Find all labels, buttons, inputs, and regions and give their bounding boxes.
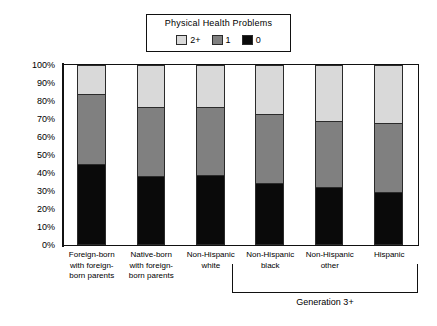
bar-segment-2plus[interactable] [138, 66, 164, 107]
x-axis-label: Hispanic [360, 250, 420, 261]
bar-segment-2plus[interactable] [78, 66, 104, 94]
y-tick-label: 10% [0, 223, 62, 232]
y-tick-label: 100% [0, 61, 62, 70]
y-tick-label: 90% [0, 79, 62, 88]
bars-layer [62, 65, 418, 245]
legend-title: Physical Health Problems [147, 18, 290, 28]
legend-label-0: 0 [256, 35, 261, 45]
bar-slot [62, 65, 121, 245]
y-tick-label: 70% [0, 115, 62, 124]
y-tick-label: 50% [0, 151, 62, 160]
legend-label-2plus: 2+ [190, 35, 200, 45]
y-tick-label: 80% [0, 97, 62, 106]
y-tick-label: 40% [0, 169, 62, 178]
chart-legend: Physical Health Problems 2+ 1 0 [146, 14, 291, 52]
bar-segment-1[interactable] [375, 123, 401, 192]
bar-slot [181, 65, 240, 245]
bar-segment-1[interactable] [316, 121, 342, 187]
stacked-bar[interactable] [77, 65, 105, 245]
plot-area: 100%90%80%70%60%50%40%30%20%10%0% [62, 64, 419, 246]
stacked-bar[interactable] [374, 65, 402, 245]
stacked-bar[interactable] [137, 65, 165, 245]
bar-segment-0[interactable] [78, 164, 104, 244]
bar-slot [240, 65, 299, 245]
legend-item-2plus: 2+ [176, 35, 200, 45]
bar-slot [121, 65, 180, 245]
x-axis-label: Native-born with foreign- born parents [122, 250, 182, 282]
bar-segment-1[interactable] [138, 107, 164, 176]
legend-swatch-1 [212, 35, 223, 45]
legend-swatch-2plus [176, 35, 187, 45]
bar-segment-0[interactable] [197, 175, 223, 244]
y-tick-label: 30% [0, 187, 62, 196]
y-tick-label: 20% [0, 205, 62, 214]
stacked-bar[interactable] [196, 65, 224, 245]
y-tick-label: 0% [0, 241, 62, 250]
generation-bracket-label: Generation 3+ [232, 297, 418, 307]
bar-segment-2plus[interactable] [316, 66, 342, 121]
legend-swatch-0 [242, 35, 253, 45]
bar-segment-2plus[interactable] [197, 66, 223, 107]
bar-segment-1[interactable] [197, 107, 223, 175]
bar-segment-1[interactable] [78, 94, 104, 163]
legend-entries: 2+ 1 0 [147, 35, 290, 45]
stacked-bar-chart: Physical Health Problems 2+ 1 0 100%90%8… [0, 0, 437, 326]
stacked-bar[interactable] [255, 65, 283, 245]
legend-item-1: 1 [212, 35, 231, 45]
stacked-bar[interactable] [315, 65, 343, 245]
legend-label-1: 1 [226, 35, 231, 45]
bar-segment-2plus[interactable] [375, 66, 401, 123]
bar-slot [299, 65, 358, 245]
x-axis-label: Foreign-born with foreign- born parents [62, 250, 122, 282]
bar-segment-1[interactable] [256, 114, 282, 183]
legend-item-0: 0 [242, 35, 261, 45]
bar-segment-0[interactable] [256, 183, 282, 244]
bar-slot [359, 65, 418, 245]
y-tick-label: 60% [0, 133, 62, 142]
bar-segment-2plus[interactable] [256, 66, 282, 114]
bar-segment-0[interactable] [316, 187, 342, 244]
bar-segment-0[interactable] [138, 176, 164, 244]
generation-bracket [232, 264, 418, 293]
bar-segment-0[interactable] [375, 192, 401, 244]
